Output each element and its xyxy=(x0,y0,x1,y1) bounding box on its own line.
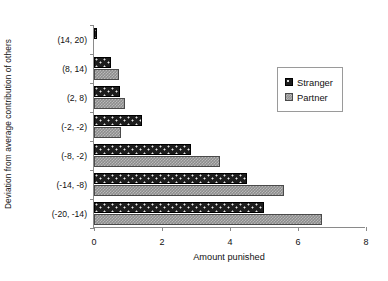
y-axis-tick xyxy=(90,141,94,142)
legend-label-stranger: Stranger xyxy=(297,77,333,88)
bar-stranger xyxy=(94,57,111,69)
x-axis-tick xyxy=(94,227,95,231)
legend-label-partner: Partner xyxy=(297,92,328,103)
bar-partner xyxy=(94,69,119,81)
y-axis-title: Deviation from average contribution of o… xyxy=(3,39,13,209)
bar-stranger xyxy=(94,173,247,185)
bar-partner xyxy=(94,98,125,110)
bar-partner xyxy=(94,214,322,226)
x-axis-tick-label: 8 xyxy=(363,237,368,247)
y-axis-tick xyxy=(90,25,94,26)
bar-stranger xyxy=(94,28,97,40)
bar-stranger xyxy=(94,86,120,98)
y-axis-category-label: (-20, -14) xyxy=(52,208,87,220)
y-axis-tick xyxy=(90,170,94,171)
y-axis-title-container: Deviation from average contribution of o… xyxy=(0,18,16,230)
x-axis-title: Amount punished xyxy=(93,252,365,262)
y-axis-category-label: (2, 8) xyxy=(67,92,87,104)
y-axis-tick xyxy=(90,112,94,113)
bar-partner xyxy=(94,156,220,168)
legend-item-partner: Partner xyxy=(285,90,333,104)
legend-swatch-stranger-icon xyxy=(285,78,293,86)
x-axis-tick-label: 6 xyxy=(295,237,300,247)
bar-stranger xyxy=(94,202,264,214)
y-axis-category-label: (-14, -8) xyxy=(56,179,87,191)
y-axis-category-label: (14, 20) xyxy=(57,34,87,46)
chart-figure: Deviation from average contribution of o… xyxy=(0,0,388,281)
y-axis-category-label: (8, 14) xyxy=(62,63,87,75)
x-axis-tick xyxy=(366,227,367,231)
x-axis-tick-label: 4 xyxy=(227,237,232,247)
y-axis-tick xyxy=(90,199,94,200)
bar-partner xyxy=(94,127,121,139)
legend-item-stranger: Stranger xyxy=(285,75,333,89)
plot-area: 02468 xyxy=(93,25,365,228)
y-axis-category-label: (-2, -2) xyxy=(61,121,87,133)
x-axis-tick xyxy=(298,227,299,231)
y-axis-tick xyxy=(90,54,94,55)
bar-stranger xyxy=(94,115,142,127)
x-axis-tick-label: 0 xyxy=(91,237,96,247)
x-axis-tick-label: 2 xyxy=(159,237,164,247)
y-axis-tick xyxy=(90,228,94,229)
bar-partner xyxy=(94,185,284,197)
bar-stranger xyxy=(94,144,191,156)
legend-swatch-partner-icon xyxy=(285,93,293,101)
y-axis-tick xyxy=(90,83,94,84)
y-axis-category-label: (-8, -2) xyxy=(61,150,87,162)
x-axis-tick xyxy=(230,227,231,231)
x-axis-tick xyxy=(162,227,163,231)
y-axis-tick-labels: (14, 20)(8, 14)(2, 8)(-2, -2)(-8, -2)(-1… xyxy=(18,25,91,228)
chart-legend: Stranger Partner xyxy=(277,67,343,112)
